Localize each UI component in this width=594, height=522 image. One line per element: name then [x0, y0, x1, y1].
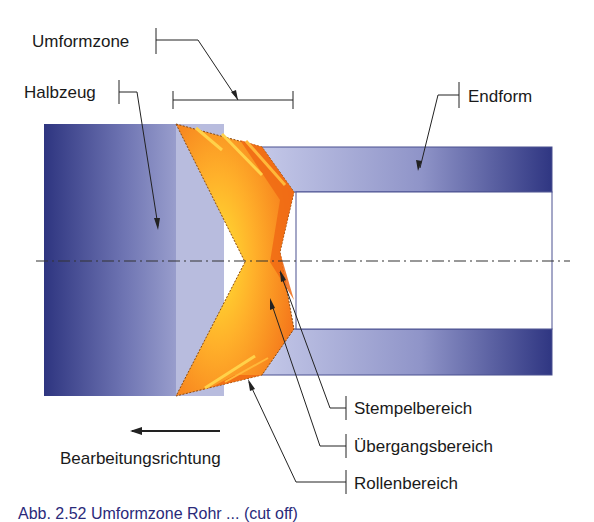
label-umformzone: Umformzone [32, 33, 129, 50]
label-stempelbereich: Stempelbereich [354, 400, 472, 417]
endform-wall-top [262, 147, 552, 192]
endform-wall-bottom [262, 329, 552, 375]
label-bearbeitungsrichtung: Bearbeitungsrichtung [60, 450, 221, 467]
endform-bore [296, 192, 552, 329]
figure-caption: Abb. 2.52 Umformzone Rohr ... (cut off) [18, 506, 298, 522]
label-halbzeug: Halbzeug [24, 84, 96, 101]
label-uebergangsbereich: Übergangsbereich [354, 438, 493, 455]
label-rollenbereich: Rollenbereich [354, 475, 458, 492]
label-endform: Endform [468, 88, 532, 105]
